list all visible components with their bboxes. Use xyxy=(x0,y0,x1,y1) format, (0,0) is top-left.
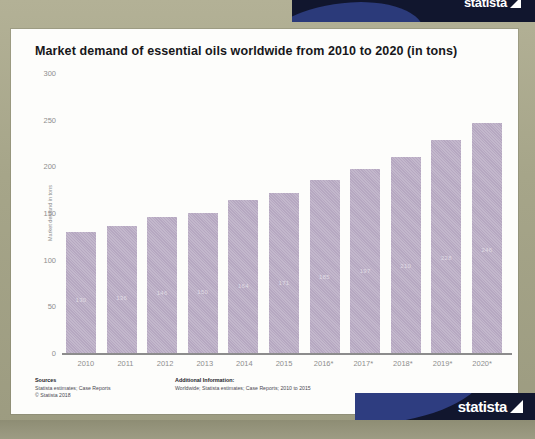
statista-wordmark-top: statista xyxy=(464,0,507,10)
top-statista-banner: statista xyxy=(292,0,535,22)
sources-heading: Sources xyxy=(35,377,111,385)
chart-card: Market demand of essential oils worldwid… xyxy=(11,29,518,414)
y-tick-50: 50 xyxy=(48,302,56,311)
y-tick-200: 200 xyxy=(43,162,56,171)
x-tick-2018-est: 2018* xyxy=(381,359,425,368)
banner-swoosh-shape xyxy=(292,0,424,22)
statista-logo-bottom: statista xyxy=(458,398,523,415)
x-tick-2012: 2012 xyxy=(143,359,187,368)
x-tick-2020-est: 2020* xyxy=(460,359,504,368)
y-tick-0: 0 xyxy=(52,349,56,358)
sources-line-1: Statista estimates; Case Reports xyxy=(35,385,111,393)
additional-info-line-1: Worldwide; Statista estimates; Case Repo… xyxy=(175,385,311,393)
x-tick-2011: 2011 xyxy=(103,359,147,368)
x-tick-2015: 2015 xyxy=(262,359,306,368)
statista-logo-top: statista xyxy=(464,0,521,10)
x-tick-2010: 2010 xyxy=(64,359,108,368)
statista-wordmark-bottom: statista xyxy=(458,398,507,415)
y-tick-150: 150 xyxy=(43,209,56,218)
additional-info-block: Additional Information: Worldwide; Stati… xyxy=(175,377,311,392)
sources-line-2: © Statista 2018 xyxy=(35,392,111,400)
y-tick-300: 300 xyxy=(43,69,56,78)
photo-bottom-strip xyxy=(0,420,535,439)
x-tick-2016-est: 2016* xyxy=(302,359,346,368)
x-tick-2013: 2013 xyxy=(183,359,227,368)
x-tick-2019-est: 2019* xyxy=(421,359,465,368)
x-tick-2014: 2014 xyxy=(222,359,266,368)
y-tick-100: 100 xyxy=(43,255,56,264)
x-axis-ticks: 2010201120122013201420152016*2017*2018*2… xyxy=(62,29,506,414)
statista-triangle-icon-top xyxy=(510,0,521,8)
x-tick-2017-est: 2017* xyxy=(341,359,385,368)
statista-triangle-icon-bottom xyxy=(510,400,523,413)
additional-info-heading: Additional Information: xyxy=(175,377,311,385)
sources-block: Sources Statista estimates; Case Reports… xyxy=(35,377,111,400)
y-tick-250: 250 xyxy=(43,115,56,124)
